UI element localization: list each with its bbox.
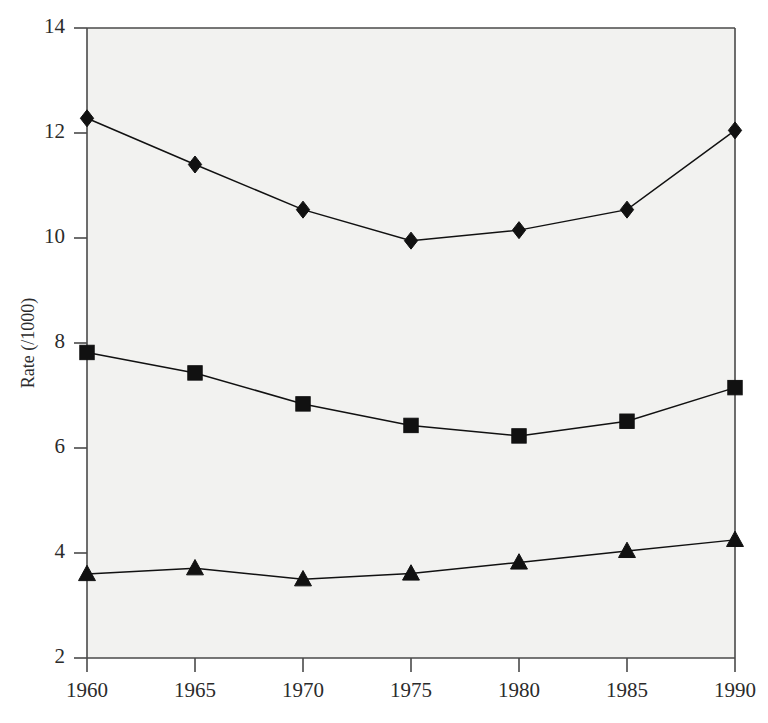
- chart-container: 2468101214 1960196519701975198019851990 …: [0, 0, 768, 723]
- y-axis-title: Rate (/1000): [18, 298, 39, 388]
- y-tick-label: 8: [55, 329, 66, 353]
- data-point-marker: [404, 418, 418, 432]
- y-tick-label: 10: [44, 224, 65, 248]
- data-point-marker: [296, 397, 310, 411]
- x-tick-label: 1965: [174, 678, 216, 702]
- plot-area-background: [87, 28, 735, 658]
- plot-background-rect: [87, 28, 735, 658]
- data-point-marker: [728, 380, 742, 394]
- x-tick-label: 1975: [390, 678, 432, 702]
- data-point-marker: [620, 414, 634, 428]
- y-tick-label: 12: [44, 119, 65, 143]
- data-point-marker: [512, 429, 526, 443]
- data-point-marker: [80, 345, 94, 359]
- x-axis-ticks: 1960196519701975198019851990: [66, 658, 756, 702]
- y-axis-title-group: Rate (/1000): [18, 298, 39, 388]
- x-tick-label: 1990: [714, 678, 756, 702]
- x-tick-label: 1960: [66, 678, 108, 702]
- y-tick-label: 14: [44, 14, 66, 38]
- x-tick-label: 1980: [498, 678, 540, 702]
- data-point-marker: [188, 366, 202, 380]
- y-tick-label: 2: [55, 644, 66, 668]
- line-chart: 2468101214 1960196519701975198019851990 …: [0, 0, 768, 723]
- x-tick-label: 1985: [606, 678, 648, 702]
- y-axis-ticks: 2468101214: [44, 14, 87, 668]
- y-tick-label: 4: [55, 539, 66, 563]
- y-tick-label: 6: [55, 434, 66, 458]
- x-tick-label: 1970: [282, 678, 324, 702]
